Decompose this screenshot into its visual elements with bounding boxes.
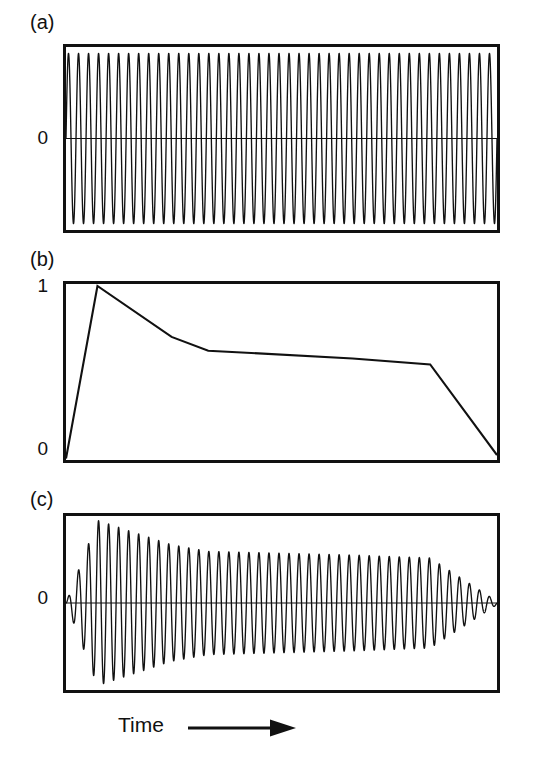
figure-adsr-envelope: (a) 0 (b) 1 0 (c) 0 Tim bbox=[0, 0, 533, 760]
panel-a-waveform-svg bbox=[66, 47, 497, 230]
panel-b-envelope-trace bbox=[66, 286, 497, 459]
time-axis-label: Time bbox=[118, 714, 164, 735]
panel-b-envelope-svg bbox=[66, 284, 497, 460]
panel-b-zero-label: 0 bbox=[18, 439, 48, 458]
panel-c-plot-box bbox=[63, 513, 500, 693]
panel-c-waveform-svg bbox=[66, 516, 497, 690]
panel-a-plot-box bbox=[63, 44, 500, 233]
panel-b-plot-box bbox=[63, 281, 500, 463]
right-arrow-icon bbox=[186, 716, 298, 740]
panel-b-one-label: 1 bbox=[18, 276, 48, 295]
panel-c-modulated-trace bbox=[66, 521, 497, 684]
panel-b-letter: (b) bbox=[30, 249, 54, 269]
panel-a-letter: (a) bbox=[30, 12, 54, 32]
panel-c-zero-label: 0 bbox=[18, 588, 48, 607]
panel-a-zero-label: 0 bbox=[18, 128, 48, 147]
panel-c-letter: (c) bbox=[30, 489, 53, 509]
panel-a-carrier-trace bbox=[66, 53, 497, 223]
